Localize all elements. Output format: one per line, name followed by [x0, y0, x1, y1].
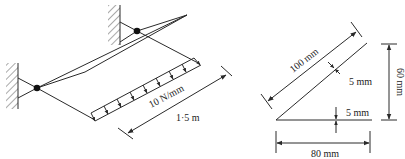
diagonal-thickness-label: 5 mm — [349, 76, 372, 87]
height-dimension — [381, 44, 397, 120]
length-dimension — [118, 66, 232, 139]
width-label: 80 mm — [311, 148, 339, 159]
height-label: 60 mm — [395, 68, 405, 96]
length-label: 1·5 m — [176, 112, 200, 123]
diagram-svg: 10 N/mm 1·5 m 100 mm 5 mm 5 mm — [0, 0, 405, 159]
left-wall-support — [6, 63, 18, 109]
load-label: 10 N/mm — [147, 82, 186, 110]
upper-bracket-frame — [120, 15, 200, 64]
upper-pin-joint — [134, 28, 141, 35]
left-pin-joint — [34, 85, 41, 92]
diagonal-dimension — [261, 22, 362, 109]
diagonal-label: 100 mm — [287, 45, 320, 74]
horizontal-thickness-label: 5 mm — [346, 107, 369, 118]
diagram-canvas: 10 N/mm 1·5 m 100 mm 5 mm 5 mm — [0, 0, 405, 159]
upper-wall-support — [108, 5, 120, 45]
